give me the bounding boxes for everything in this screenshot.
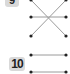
dot-point <box>29 34 32 37</box>
dot-point <box>64 34 67 37</box>
dot-point <box>29 70 32 73</box>
dot-point <box>29 53 32 56</box>
dot-point <box>64 70 67 73</box>
dot-point <box>29 15 32 18</box>
dot-point <box>64 53 67 56</box>
dot-point <box>64 15 67 18</box>
matching-lines-diagram <box>0 0 70 74</box>
